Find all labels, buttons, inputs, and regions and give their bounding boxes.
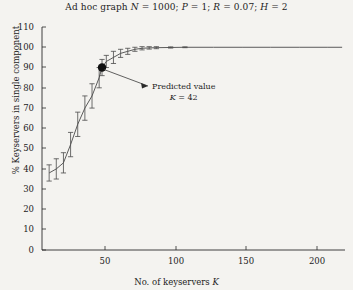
error-bar <box>54 159 59 179</box>
error-bar <box>61 153 66 173</box>
chart-figure: Ad hoc graph N = 1000; P = 1; R = 0.07; … <box>0 0 353 290</box>
x-tick-marks <box>105 246 317 250</box>
series-line <box>49 47 342 173</box>
error-bar <box>47 165 52 181</box>
data-series <box>47 47 343 181</box>
error-bar <box>75 112 80 136</box>
error-bar <box>89 84 94 108</box>
y-tick-marks <box>42 27 46 250</box>
error-bar <box>82 96 87 120</box>
highlight-marker-predicted-value <box>98 63 106 71</box>
error-bar <box>68 132 73 156</box>
plot-area <box>0 0 353 290</box>
error-bar <box>125 48 130 54</box>
annotation-arrow <box>104 70 148 89</box>
arrow-head-icon <box>141 83 148 89</box>
error-bar <box>118 49 123 57</box>
error-bar <box>111 51 116 63</box>
